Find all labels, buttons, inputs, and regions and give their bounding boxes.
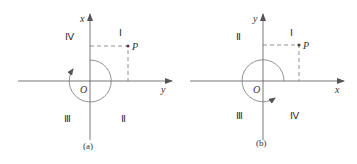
quadrant-upper-left-b: Ⅱ: [236, 31, 241, 42]
panel-b: y x O P Ⅱ Ⅰ Ⅲ Ⅳ (b): [190, 13, 344, 148]
quadrant-upper-right-a: Ⅰ: [119, 27, 122, 38]
dashed-projection-a: [90, 46, 128, 81]
dashed-projection-b: [263, 45, 299, 81]
point-label-a: P: [131, 41, 138, 52]
quadrant-lower-right-b: Ⅳ: [290, 110, 300, 121]
point-label-b: P: [302, 40, 309, 51]
vertical-axis-label-b: y: [252, 13, 258, 24]
caption-a: (a): [83, 141, 93, 151]
quadrant-lower-left-a: Ⅲ: [64, 113, 71, 124]
quadrant-upper-left-a: Ⅳ: [65, 31, 75, 42]
panel-a: x y O P Ⅳ Ⅰ Ⅲ Ⅱ (a): [18, 13, 172, 151]
quadrant-lower-left-b: Ⅲ: [236, 110, 243, 121]
point-p-a: [126, 44, 129, 47]
point-p-b: [297, 43, 300, 46]
quadrant-upper-right-b: Ⅰ: [290, 27, 293, 38]
origin-label-a: O: [80, 84, 87, 95]
horizontal-axis-label-a: y: [160, 84, 166, 95]
origin-label-b: O: [253, 84, 260, 95]
quadrant-lower-right-a: Ⅱ: [121, 113, 126, 124]
coordinate-systems-figure: x y O P Ⅳ Ⅰ Ⅲ Ⅱ (a) y x O P Ⅱ Ⅰ Ⅲ Ⅳ (b): [0, 0, 357, 164]
caption-b: (b): [256, 138, 267, 148]
horizontal-axis-label-b: x: [334, 84, 340, 95]
vertical-axis-label-a: x: [79, 13, 85, 24]
